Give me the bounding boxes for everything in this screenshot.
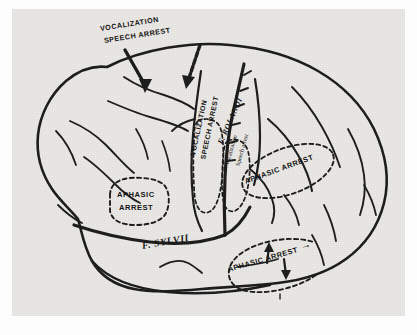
preoccipital-notch	[312, 235, 324, 265]
occipital-sulcus-c	[324, 205, 336, 241]
aphasic-frontal-line1: APHASIC	[117, 190, 155, 199]
arrow-down-temporal-head	[281, 270, 291, 280]
photographic-plate: VOCALIZATION SPEECH ARREST VOCALIZATION …	[12, 9, 405, 316]
arrow-down-callout-right-icon	[188, 45, 200, 81]
brain-diagram-figure: VOCALIZATION SPEECH ARREST VOCALIZATION …	[0, 0, 417, 335]
frontal-sulcus-short-b	[162, 141, 170, 171]
brain-line-drawing	[12, 9, 405, 316]
middle-frontal-sulcus	[70, 121, 134, 173]
superior-temporal-sulcus	[160, 261, 202, 273]
superior-frontal-sulcus	[124, 77, 194, 109]
rolandic-serration-1	[244, 71, 251, 75]
orbital-margin	[58, 205, 82, 223]
cortex-outline	[38, 44, 387, 291]
arrow-down-callout-right-head	[182, 75, 195, 89]
occipital-sulcus-a	[348, 129, 365, 215]
frontal-operculum-sulcus	[56, 131, 76, 165]
frontal-sulcus-short-a	[136, 129, 148, 159]
zone-aphasic-frontal-dashed	[110, 178, 169, 225]
rolandic-serration-2	[240, 88, 248, 91]
postcentral-sulcus	[254, 79, 260, 185]
arrow-up-temporal-head	[264, 242, 274, 252]
aphasic-frontal-line2: ARREST	[119, 203, 153, 212]
occipital-sulcus-b	[364, 185, 376, 215]
angular-gyrus-arc	[284, 195, 299, 225]
